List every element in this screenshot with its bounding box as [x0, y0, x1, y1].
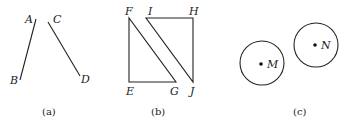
label-d: D	[80, 73, 90, 86]
panel-c: M N (c)	[240, 23, 338, 117]
label-h: H	[188, 5, 199, 18]
caption-c: (c)	[293, 106, 307, 117]
figure: A C B D (a) F I H E G J (b) M N (c)	[0, 0, 349, 127]
center-dot-m	[259, 62, 263, 66]
label-e: E	[125, 85, 134, 98]
label-i: I	[147, 5, 153, 18]
label-f: F	[124, 5, 133, 18]
caption-a: (a)	[42, 106, 56, 117]
caption-b: (b)	[151, 106, 165, 117]
panel-a: A C B D (a)	[9, 13, 90, 117]
label-b: B	[9, 74, 18, 87]
label-g: G	[170, 85, 179, 98]
label-a: A	[24, 13, 33, 26]
segment-cd	[48, 22, 80, 76]
center-dot-n	[313, 43, 317, 47]
label-n: N	[320, 39, 331, 52]
segment-ab	[20, 19, 36, 80]
label-j: J	[188, 85, 195, 98]
label-c: C	[53, 13, 62, 26]
label-m: M	[266, 58, 279, 71]
panel-b: F I H E G J (b)	[124, 5, 199, 117]
